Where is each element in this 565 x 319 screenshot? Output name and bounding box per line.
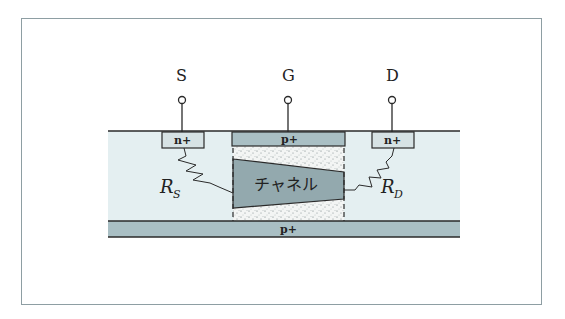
svg-text:R: R [380,176,395,197]
drain-region-label: n+ [384,134,401,147]
terminal-label-gate: G [282,66,295,85]
svg-text:D: D [393,188,403,201]
bottom-layer-label: p+ [280,223,297,236]
terminal-label-source: S [176,66,187,85]
source-terminal [179,97,186,133]
svg-text:R: R [159,176,174,197]
channel-label: チャネル [254,175,318,194]
drain-terminal [389,97,396,133]
svg-text:S: S [173,188,181,201]
gate-region-label: p+ [281,133,298,146]
terminal-label-drain: D [386,66,399,85]
source-region-label: n+ [174,134,191,147]
gate-terminal [285,97,292,133]
jfet-diagram: S G D n+ p+ n+ p+ チャネル R S R D [0,0,565,319]
